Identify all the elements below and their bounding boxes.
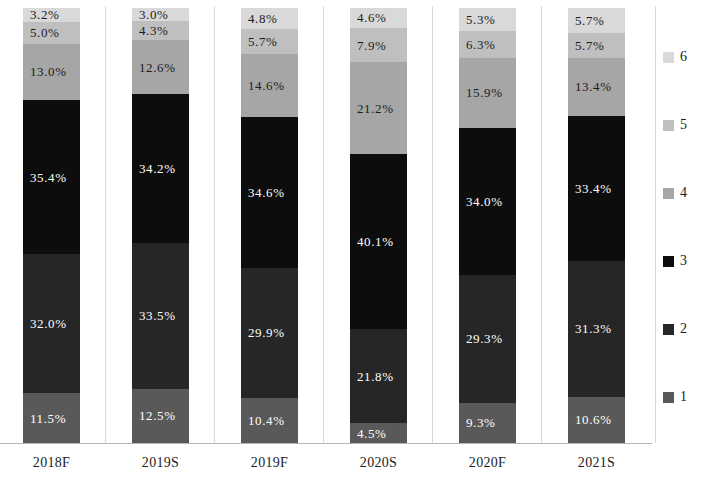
- bar-column[interactable]: 4.8%5.7%14.6%34.6%29.9%10.4%: [241, 8, 298, 443]
- bar-segment-2[interactable]: 31.3%: [568, 261, 625, 397]
- grid-line-1: [105, 6, 106, 443]
- bar-segment-6[interactable]: 5.7%: [568, 8, 625, 33]
- x-axis-tick-label-2020F: 2020F: [433, 455, 543, 471]
- bar-segment-4[interactable]: 14.6%: [241, 54, 298, 118]
- bar-segment-2[interactable]: 29.3%: [459, 275, 516, 402]
- legend-item-2[interactable]: 2: [663, 322, 687, 336]
- bar-segment-3[interactable]: 33.4%: [568, 116, 625, 261]
- bar-segment-1[interactable]: 10.4%: [241, 398, 298, 443]
- bar-segment-value-label: 11.5%: [23, 412, 66, 425]
- bar-segment-6[interactable]: 3.2%: [23, 8, 80, 22]
- bar-segment-value-label: 33.4%: [568, 182, 612, 195]
- bar-segment-value-label: 29.3%: [459, 332, 503, 345]
- bar-segment-value-label: 5.7%: [568, 39, 604, 52]
- x-axis-tick-label-2020S: 2020S: [324, 455, 434, 471]
- bar-segment-value-label: 4.5%: [350, 427, 386, 440]
- bar-segment-value-label: 21.8%: [350, 370, 394, 383]
- bar-segment-6[interactable]: 5.3%: [459, 8, 516, 31]
- bar-segment-5[interactable]: 5.7%: [241, 29, 298, 54]
- bar-segment-1[interactable]: 11.5%: [23, 393, 80, 443]
- bar-segment-value-label: 21.2%: [350, 102, 394, 115]
- legend-label: 3: [680, 254, 687, 268]
- chart-legend: 654321: [655, 0, 707, 451]
- bar-segment-value-label: 4.8%: [241, 12, 277, 25]
- bar-stack: 3.0%4.3%12.6%34.2%33.5%12.5%: [132, 8, 189, 443]
- bar-segment-value-label: 9.3%: [459, 416, 495, 429]
- bar-segment-value-label: 5.3%: [459, 13, 495, 26]
- bar-segment-value-label: 34.2%: [132, 162, 176, 175]
- bar-segment-2[interactable]: 32.0%: [23, 254, 80, 393]
- bar-segment-value-label: 13.0%: [23, 65, 67, 78]
- bar-segment-value-label: 5.7%: [568, 14, 604, 27]
- grid-line-3: [323, 6, 324, 443]
- bar-segment-value-label: 5.7%: [241, 35, 277, 48]
- bar-segment-value-label: 4.6%: [350, 11, 386, 24]
- bar-column[interactable]: 3.0%4.3%12.6%34.2%33.5%12.5%: [132, 8, 189, 443]
- x-axis-tick-label-2021S: 2021S: [542, 455, 652, 471]
- bar-segment-2[interactable]: 29.9%: [241, 268, 298, 398]
- bar-segment-6[interactable]: 4.6%: [350, 8, 407, 28]
- bar-segment-5[interactable]: 5.0%: [23, 22, 80, 44]
- bar-segment-6[interactable]: 3.0%: [132, 8, 189, 21]
- legend-item-5[interactable]: 5: [663, 118, 687, 132]
- bar-stack: 4.6%7.9%21.2%40.1%21.8%4.5%: [350, 8, 407, 443]
- bar-segment-value-label: 6.3%: [459, 38, 495, 51]
- bar-segment-value-label: 10.4%: [241, 414, 285, 427]
- bar-segment-4[interactable]: 21.2%: [350, 62, 407, 154]
- bar-segment-5[interactable]: 5.7%: [568, 33, 625, 58]
- bar-stack: 5.7%5.7%13.4%33.4%31.3%10.6%: [568, 8, 625, 443]
- bar-segment-value-label: 4.3%: [132, 24, 168, 37]
- bar-column[interactable]: 5.3%6.3%15.9%34.0%29.3%9.3%: [459, 8, 516, 443]
- bar-segment-1[interactable]: 9.3%: [459, 403, 516, 443]
- x-axis-tick-label-2018F: 2018F: [0, 455, 107, 471]
- bar-stack: 4.8%5.7%14.6%34.6%29.9%10.4%: [241, 8, 298, 443]
- bar-segment-value-label: 15.9%: [459, 86, 503, 99]
- bar-segment-value-label: 40.1%: [350, 235, 394, 248]
- grid-line-5: [541, 6, 542, 443]
- bar-segment-3[interactable]: 34.2%: [132, 94, 189, 243]
- bar-segment-5[interactable]: 7.9%: [350, 28, 407, 62]
- bar-segment-4[interactable]: 13.4%: [568, 58, 625, 116]
- legend-item-4[interactable]: 4: [663, 186, 687, 200]
- bar-segment-value-label: 12.6%: [132, 61, 176, 74]
- bar-column[interactable]: 5.7%5.7%13.4%33.4%31.3%10.6%: [568, 8, 625, 443]
- legend-label: 2: [680, 322, 687, 336]
- bar-stack: 3.2%5.0%13.0%35.4%32.0%11.5%: [23, 8, 80, 443]
- legend-label: 1: [680, 390, 687, 404]
- bar-segment-value-label: 33.5%: [132, 309, 176, 322]
- bar-segment-3[interactable]: 35.4%: [23, 100, 80, 254]
- bar-segment-3[interactable]: 34.0%: [459, 128, 516, 276]
- bar-segment-2[interactable]: 33.5%: [132, 243, 189, 389]
- legend-item-1[interactable]: 1: [663, 390, 687, 404]
- grid-line-4: [432, 6, 433, 443]
- legend-item-6[interactable]: 6: [663, 50, 687, 64]
- bar-segment-value-label: 7.9%: [350, 39, 386, 52]
- bar-segment-1[interactable]: 10.6%: [568, 397, 625, 443]
- bar-segment-4[interactable]: 13.0%: [23, 44, 80, 101]
- bar-segment-2[interactable]: 21.8%: [350, 329, 407, 424]
- bar-column[interactable]: 4.6%7.9%21.2%40.1%21.8%4.5%: [350, 8, 407, 443]
- bar-segment-3[interactable]: 34.6%: [241, 117, 298, 268]
- bar-segment-value-label: 29.9%: [241, 326, 285, 339]
- bar-segment-3[interactable]: 40.1%: [350, 154, 407, 328]
- bar-segment-value-label: 31.3%: [568, 322, 612, 335]
- bar-segment-5[interactable]: 6.3%: [459, 31, 516, 58]
- bar-segment-value-label: 3.2%: [23, 8, 59, 21]
- bar-segment-value-label: 34.6%: [241, 186, 285, 199]
- legend-swatch-icon: [663, 392, 674, 403]
- bar-segment-value-label: 34.0%: [459, 195, 503, 208]
- bar-segment-value-label: 12.5%: [132, 409, 176, 422]
- bar-segment-6[interactable]: 4.8%: [241, 8, 298, 29]
- bar-segment-1[interactable]: 4.5%: [350, 423, 407, 443]
- bar-segment-value-label: 13.4%: [568, 80, 612, 93]
- bar-segment-5[interactable]: 4.3%: [132, 21, 189, 40]
- legend-swatch-icon: [663, 256, 674, 267]
- bar-segment-1[interactable]: 12.5%: [132, 389, 189, 443]
- plot-area: 3.2%5.0%13.0%35.4%32.0%11.5%3.0%4.3%12.6…: [0, 0, 652, 451]
- bar-segment-4[interactable]: 15.9%: [459, 58, 516, 127]
- bar-stack: 5.3%6.3%15.9%34.0%29.3%9.3%: [459, 8, 516, 443]
- bar-segment-value-label: 3.0%: [132, 8, 168, 21]
- legend-item-3[interactable]: 3: [663, 254, 687, 268]
- bar-column[interactable]: 3.2%5.0%13.0%35.4%32.0%11.5%: [23, 8, 80, 443]
- bar-segment-4[interactable]: 12.6%: [132, 40, 189, 95]
